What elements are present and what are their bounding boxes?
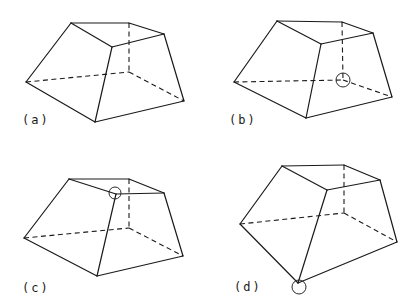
visible-edge [112,34,164,47]
visible-edge [282,165,344,166]
panel-b-drawing [234,21,392,118]
visible-edge [298,190,327,283]
hidden-edge [234,80,343,82]
visible-edge [240,224,298,283]
visible-edge [306,97,392,118]
panel-label-a: (a) [22,113,50,127]
visible-edge [95,101,184,122]
visible-edge [97,256,183,276]
visible-edge [97,194,116,276]
figure-canvas [0,0,417,307]
visible-edge [277,21,342,22]
panel-c-drawing [24,179,183,276]
hidden-edge [24,228,129,238]
hidden-edge [129,72,184,101]
visible-edge [71,23,112,47]
hidden-edge [344,213,397,242]
hidden-edge [26,72,129,82]
visible-edge [306,44,321,118]
visible-edge [277,21,321,44]
visible-edge [129,179,164,193]
hidden-edge [240,213,344,224]
visible-edge [342,22,373,33]
visible-edge [344,165,380,180]
visible-edge [164,193,183,256]
panel-d-drawing [240,165,397,294]
panel-a-drawing [26,23,184,122]
visible-edge [164,34,184,101]
panel-label-c: (c) [22,281,50,295]
visible-edge [24,179,69,238]
visible-edge [129,23,164,34]
visible-edge [240,166,282,224]
hidden-edge [129,228,183,256]
visible-edge [95,47,112,122]
visible-edge [327,180,380,190]
hidden-edge [342,22,343,80]
panel-label-b: (b) [229,113,257,127]
hidden-edge [343,80,392,97]
visible-edge [298,242,397,283]
visible-edge [116,193,164,194]
visible-edge [282,166,327,190]
visible-edge [380,180,397,242]
visible-edge [373,33,392,97]
visible-edge [321,33,373,44]
visible-edge [234,21,277,82]
visible-edge [24,238,97,276]
panel-label-d: (d) [234,280,262,294]
visible-edge [26,23,71,82]
